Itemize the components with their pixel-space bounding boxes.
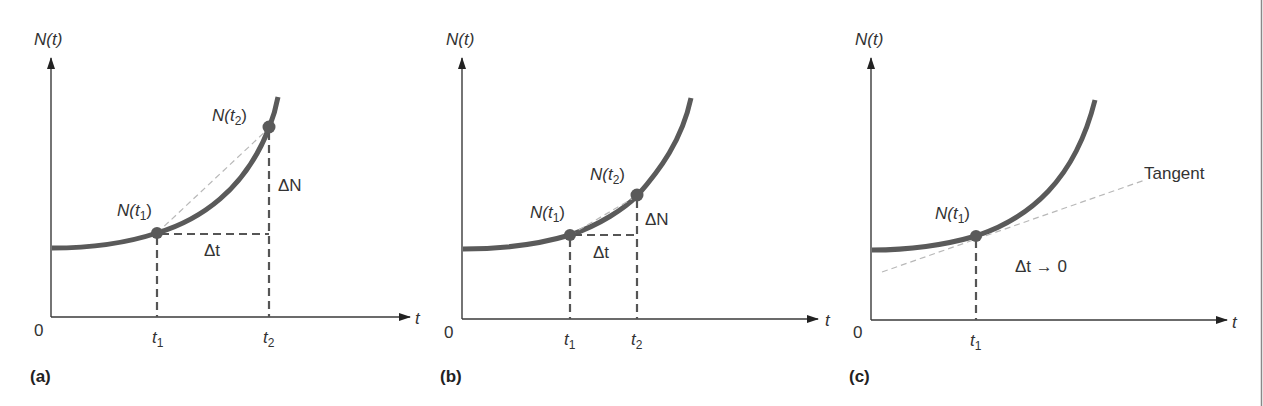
panel-a: N(t) t 0 N(t1) N(t2) ΔN Δt t1 t2 (a) [30,30,421,386]
panel-label-b: (b) [440,367,462,386]
x-axis-label: t [415,309,421,328]
panel-b: N(t) t 0 N(t1) N(t2) ΔN Δt t1 t2 (b) [440,30,831,386]
tick-t1: t1 [152,328,164,350]
point1-label: N(t1) [935,204,970,226]
panel-label-a: (a) [30,367,51,386]
y-axis-label: N(t) [446,30,474,49]
growth-curve [872,100,1095,250]
delta-n-label: ΔN [645,210,669,229]
tick-t2: t2 [631,330,643,352]
point2-label: N(t2) [590,165,625,187]
tick-t1: t1 [564,330,576,352]
y-axis-label: N(t) [34,30,62,49]
x-axis-label: t [1232,313,1238,332]
derivative-figure: N(t) t 0 N(t1) N(t2) ΔN Δt t1 t2 (a) N(t… [0,0,1263,406]
point-t2 [631,189,644,202]
x-axis-label: t [825,311,831,330]
point1-label: N(t1) [117,201,152,223]
delta-t-label: Δt [593,243,609,262]
tick-t1: t1 [970,331,982,353]
tangent-line [882,180,1145,272]
delta-t-label: Δt [204,241,220,260]
point-t1 [151,227,163,239]
panel-label-c: (c) [849,367,870,386]
point1-label: N(t1) [530,203,565,225]
limit-label: Δt → 0 [1015,257,1067,276]
point-t2 [263,121,276,134]
point2-label: N(t2) [212,106,247,128]
secant-line [157,128,269,233]
origin-label: 0 [444,323,453,342]
panel-c: N(t) t 0 N(t1) Tangent Δt → 0 t1 (c) [849,30,1238,386]
y-axis-label: N(t) [855,30,883,49]
point-t1 [970,230,982,242]
origin-label: 0 [34,321,43,340]
secant-line [570,196,637,235]
tangent-label: Tangent [1144,164,1205,183]
delta-n-label: ΔN [278,176,302,195]
tick-t2: t2 [263,328,275,350]
point-t1 [564,229,576,241]
origin-label: 0 [853,323,862,342]
